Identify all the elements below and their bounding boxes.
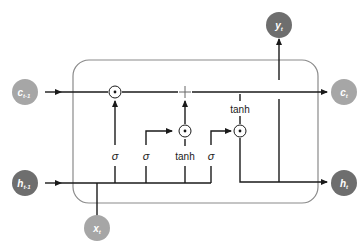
input-multiply-op xyxy=(179,125,191,137)
input-gate-label: σ xyxy=(143,150,150,162)
cell-add-op xyxy=(179,86,191,98)
node-h-prev: ht-1 xyxy=(12,170,38,196)
node-h-t: ht xyxy=(331,170,357,196)
forget-gate-label: σ xyxy=(112,150,119,162)
lstm-diagram: σ σ tanh σ tanh ct-1 ht-1 xt yt ct ht xyxy=(0,0,363,251)
cell-tanh-label: tanh xyxy=(230,104,249,115)
node-y-t: yt xyxy=(266,12,292,38)
output-multiply-op xyxy=(234,125,246,137)
node-c-prev: ct-1 xyxy=(12,79,38,105)
node-c-t: ct xyxy=(331,79,357,105)
candidate-label: tanh xyxy=(175,151,194,162)
node-x-t: xt xyxy=(84,215,110,241)
forget-multiply-op xyxy=(109,86,121,98)
output-gate-label: σ xyxy=(208,150,215,162)
